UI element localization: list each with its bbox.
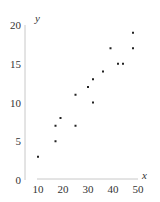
data-point [87,86,89,88]
data-point [92,102,94,104]
y-tick-label: 10 [10,97,22,109]
x-axis-title: x [141,169,147,181]
x-tick-label: 50 [133,183,145,195]
y-tick-label: 0 [16,174,22,186]
data-point [92,78,94,80]
data-point [122,63,124,65]
x-tick-labels: 1020304050 [33,183,145,195]
x-tick-label: 10 [33,183,45,195]
data-point [37,156,39,158]
y-tick-labels: 05101520 [10,19,22,186]
y-tick-label: 5 [16,135,22,147]
data-point [132,47,134,49]
data-point [132,32,134,34]
data-point [75,125,77,127]
data-point [117,63,119,65]
scatter-chart: 05101520 1020304050 y x [0,0,160,202]
data-point [60,117,62,119]
data-point [75,94,77,96]
y-axis-title: y [34,12,40,24]
x-tick-label: 20 [58,183,70,195]
y-tick-label: 20 [10,19,22,31]
x-tick-label: 30 [83,183,95,195]
data-point [55,125,57,127]
data-points [37,32,134,158]
data-point [55,140,57,142]
data-point [110,47,112,49]
data-point [102,71,104,73]
axes [25,25,138,180]
x-tick-label: 40 [108,183,120,195]
y-tick-label: 15 [10,58,22,70]
